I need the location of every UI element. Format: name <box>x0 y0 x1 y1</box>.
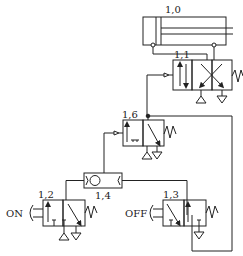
main-valve-1-1[interactable] <box>164 60 243 103</box>
label-main-valve: 1,1 <box>174 49 190 60</box>
cylinder-1-0[interactable] <box>143 17 233 47</box>
memory-valve-1-6[interactable] <box>114 120 176 159</box>
off-button-label[interactable]: OFF <box>125 208 147 219</box>
label-off-valve: 1,3 <box>163 189 179 200</box>
shuttle-valve-1-4[interactable] <box>84 173 122 188</box>
label-shuttle-valve: 1,4 <box>95 190 111 201</box>
on-valve-1-2[interactable] <box>30 200 97 240</box>
label-on-valve: 1,2 <box>38 189 54 200</box>
on-button-label[interactable]: ON <box>6 208 23 219</box>
off-valve-1-3[interactable] <box>150 200 218 239</box>
label-cylinder: 1,0 <box>165 4 181 15</box>
label-memory-valve: 1,6 <box>122 109 138 120</box>
pneumatic-diagram: 1,0 1,1 1,6 1,4 1,2 1,3 ON OFF <box>0 0 243 256</box>
